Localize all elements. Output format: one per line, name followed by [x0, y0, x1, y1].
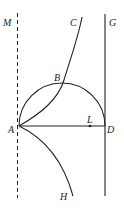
label-D: D	[106, 124, 115, 135]
label-M: M	[2, 17, 12, 28]
label-C: C	[70, 17, 77, 28]
point-L	[89, 125, 92, 128]
label-L: L	[86, 114, 93, 125]
label-G: G	[109, 17, 116, 28]
label-H: H	[59, 191, 68, 202]
curve-ABC	[19, 17, 82, 126]
diagram-canvas: M C G B A L D H	[0, 0, 124, 209]
label-B: B	[54, 72, 60, 83]
curve-AH	[19, 126, 73, 196]
geometry-diagram: M C G B A L D H	[0, 0, 124, 209]
label-A: A	[7, 124, 15, 135]
